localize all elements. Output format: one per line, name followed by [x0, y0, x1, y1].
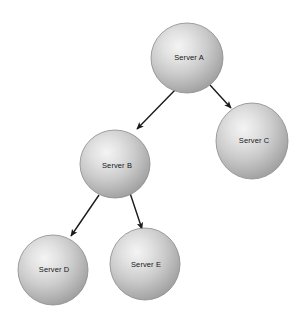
- node-server-b[interactable]: [80, 130, 150, 198]
- node-server-e[interactable]: [110, 228, 180, 300]
- edge-a-b: [137, 89, 176, 129]
- edge-b-e: [130, 193, 142, 229]
- node-group: [18, 23, 288, 305]
- edge-a-c: [210, 85, 231, 108]
- node-server-d[interactable]: [18, 235, 88, 305]
- graph-svg: [0, 0, 302, 316]
- node-server-c[interactable]: [216, 103, 288, 179]
- node-server-a[interactable]: [151, 23, 223, 93]
- edge-b-d: [71, 195, 99, 236]
- diagram-canvas: Server A Server C Server B Server D Serv…: [0, 0, 302, 316]
